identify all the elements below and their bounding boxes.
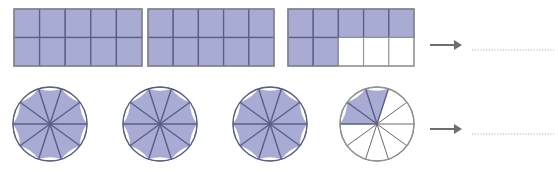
cell <box>338 9 363 38</box>
cell <box>249 38 274 67</box>
rectangle-model-2 <box>148 9 274 66</box>
arrow-head <box>454 40 462 50</box>
cell <box>224 38 249 67</box>
cell <box>313 9 338 38</box>
circle-model-1 <box>13 87 87 161</box>
cell <box>14 38 40 67</box>
cell <box>288 38 313 67</box>
cell <box>148 38 173 67</box>
cell <box>91 38 117 67</box>
fraction-worksheet <box>0 0 558 172</box>
cell <box>40 38 66 67</box>
cell <box>313 38 338 67</box>
cell <box>116 9 142 38</box>
cell <box>338 38 363 67</box>
cell <box>288 9 313 38</box>
arrow-right-icon <box>430 124 462 134</box>
cell <box>91 9 117 38</box>
cell <box>224 9 249 38</box>
cell <box>65 9 91 38</box>
cell <box>148 9 173 38</box>
cell <box>389 9 414 38</box>
cell <box>65 38 91 67</box>
cell <box>364 38 389 67</box>
rectangle-model-3 <box>288 9 414 66</box>
cell <box>249 9 274 38</box>
rectangle-models-canvas <box>0 0 558 86</box>
circle-models-row <box>0 86 558 172</box>
rectangle-models-row <box>0 0 558 86</box>
circle-model-4 <box>340 87 414 161</box>
cell <box>198 9 223 38</box>
arrow-head <box>454 124 462 134</box>
cell <box>40 9 66 38</box>
circle-model-2 <box>123 87 197 161</box>
cell <box>389 38 414 67</box>
cell <box>173 9 198 38</box>
circle-models-canvas <box>0 86 558 172</box>
cell <box>14 9 40 38</box>
cell <box>364 9 389 38</box>
circle-model-3 <box>233 87 307 161</box>
rectangle-model-1 <box>14 9 142 66</box>
arrow-right-icon <box>430 40 462 50</box>
cell <box>198 38 223 67</box>
cell <box>116 38 142 67</box>
cell <box>173 38 198 67</box>
